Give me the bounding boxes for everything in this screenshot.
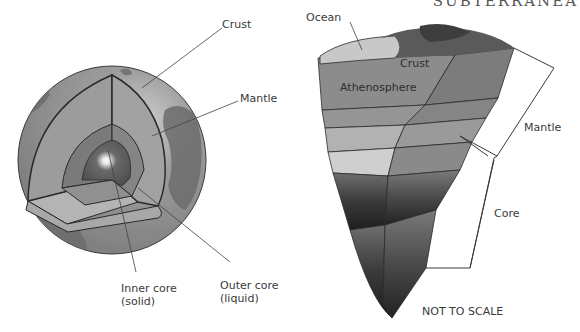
globe-cutaway (18, 28, 238, 272)
earth-layer-wedge (318, 22, 554, 318)
diagram-graphics (0, 0, 580, 332)
wedge-mantle-label: Mantle (524, 121, 561, 134)
outer-core-label: Outer core (liquid) (220, 279, 279, 305)
inner-core-label-line2: (solid) (121, 295, 177, 308)
wedge-core-label: Core (494, 207, 519, 220)
inner-core-label-line1: Inner core (121, 282, 177, 295)
athenosphere-label: Athenosphere (340, 81, 417, 94)
globe-mantle-label: Mantle (240, 92, 277, 105)
inner-core-label: Inner core (solid) (121, 282, 177, 308)
globe-crust-label: Crust (222, 18, 251, 31)
header-title: SUBTERRANEA (433, 0, 578, 10)
not-to-scale-note: NOT TO SCALE (422, 305, 503, 318)
earth-structure-diagram: SUBTERRANEA Crust Mantle Inner core (sol… (0, 0, 580, 332)
wedge-crust-label: Crust (400, 57, 429, 70)
outer-core-label-line2: (liquid) (220, 292, 279, 305)
outer-core-label-line1: Outer core (220, 279, 279, 292)
ocean-label: Ocean (306, 11, 341, 24)
